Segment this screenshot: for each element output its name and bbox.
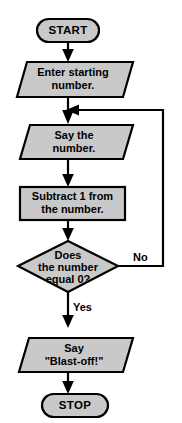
node-decision-line3: equal 0? — [46, 273, 91, 285]
arrowhead-icon — [62, 49, 74, 62]
node-enter-number[interactable]: Enter starting number. — [17, 62, 133, 97]
node-decision[interactable]: Does the number equal 0? — [18, 241, 118, 292]
node-blast-off-line2: "Blast-off!" — [45, 355, 104, 367]
node-blast-off[interactable]: Say "Blast-off!" — [19, 338, 133, 372]
node-say-number[interactable]: Say the number. — [20, 125, 133, 159]
node-blast-off-line1: Say — [64, 342, 84, 354]
arrowhead-icon — [62, 228, 74, 241]
node-subtract-one[interactable]: Subtract 1 from the number. — [20, 187, 125, 220]
branch-label-yes: Yes — [73, 301, 92, 313]
node-enter-number-line1: Enter starting — [37, 66, 109, 78]
edge-say-number-to-subtract-one — [62, 160, 74, 187]
node-decision-line2: the number — [38, 261, 99, 273]
node-stop-label: STOP — [59, 399, 91, 411]
edge-start-to-enter-number — [62, 42, 74, 62]
flowchart-canvas: START Enter starting number. Say the num… — [0, 0, 182, 423]
node-say-number-line2: number. — [53, 142, 96, 154]
node-subtract-one-line1: Subtract 1 from — [32, 190, 114, 202]
edge-blast-off-to-stop — [62, 373, 74, 394]
node-say-number-line1: Say the — [54, 129, 93, 141]
arrowhead-icon — [62, 174, 74, 187]
arrowhead-icon — [62, 381, 74, 394]
arrowhead-icon — [62, 315, 74, 328]
edge-subtract-one-to-decision — [62, 220, 74, 241]
node-decision-line1: Does — [55, 249, 82, 261]
node-subtract-one-line2: the number. — [41, 203, 103, 215]
node-enter-number-line2: number. — [52, 79, 95, 91]
node-stop[interactable]: STOP — [42, 394, 108, 417]
node-start[interactable]: START — [37, 19, 99, 42]
flowchart-diagram: START Enter starting number. Say the num… — [0, 0, 182, 423]
node-start-label: START — [49, 24, 88, 36]
branch-label-no: No — [133, 251, 148, 263]
